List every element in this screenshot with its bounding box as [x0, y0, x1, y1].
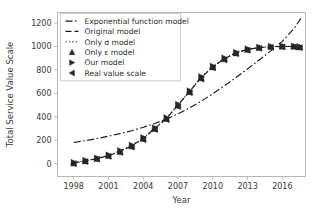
x-axis-title: Year [172, 195, 192, 205]
x-tick-label: 2013 [237, 182, 257, 191]
legend-label: Only σ model [85, 38, 136, 47]
legend-label: Original model [85, 27, 141, 36]
y-tick-label: 600 [36, 89, 51, 98]
legend-label: Only ε model [85, 48, 135, 57]
figure-canvas: 1998200120042007201020132016020040060080… [0, 0, 321, 215]
x-tick-label: 1998 [64, 182, 84, 191]
y-tick-label: 1200 [31, 19, 51, 28]
y-tick-label: 200 [36, 136, 51, 145]
legend-item[interactable]: Exponential function model [66, 17, 189, 26]
x-tick-label: 2004 [133, 182, 153, 191]
x-tick-label: 2001 [98, 182, 118, 191]
y-tick-label: 400 [36, 113, 51, 122]
y-tick-label: 1000 [31, 42, 51, 51]
legend-label: Exponential function model [85, 17, 189, 26]
legend-label: Real value scale [85, 69, 147, 78]
y-tick-label: 800 [36, 66, 51, 75]
x-tick-label: 2010 [203, 182, 223, 191]
y-tick-label: 0 [46, 160, 51, 169]
y-axis-title: Total Service Value Scale [5, 42, 15, 149]
chart-svg: 1998200120042007201020132016020040060080… [0, 0, 321, 215]
legend-label: Our model [85, 58, 125, 67]
x-tick-label: 2016 [272, 182, 292, 191]
x-tick-label: 2007 [168, 182, 188, 191]
